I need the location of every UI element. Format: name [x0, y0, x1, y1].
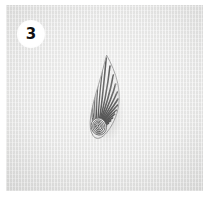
figure-number-badge: 3	[17, 20, 45, 48]
specimen-image	[86, 54, 126, 142]
photo-plate: 3	[6, 5, 203, 191]
specimen-drawing	[86, 54, 126, 142]
figure-number-label: 3	[26, 27, 36, 42]
figure-panel: 3	[0, 0, 210, 203]
